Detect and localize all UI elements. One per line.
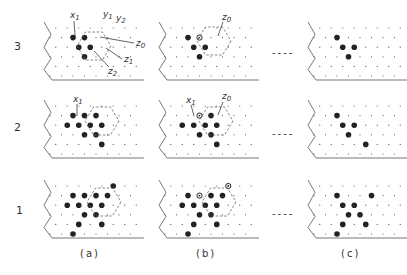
lattice-site	[400, 125, 401, 126]
marked-site-center	[199, 115, 201, 117]
annotation-leader	[94, 51, 109, 67]
lattice-site	[365, 125, 366, 126]
lattice-site	[222, 115, 223, 116]
lattice-site	[49, 153, 50, 154]
lattice-site	[394, 37, 395, 38]
lattice-site	[55, 224, 56, 225]
lattice-site	[245, 134, 246, 135]
lattice-site	[187, 115, 188, 116]
lattice-site	[331, 205, 332, 206]
lattice-site	[61, 115, 62, 116]
occupied-site	[340, 202, 346, 208]
lattice-site	[216, 47, 217, 48]
lattice-site	[319, 125, 320, 126]
lattice-site	[187, 56, 188, 57]
occupied-site	[191, 222, 197, 228]
lattice-site	[371, 233, 372, 234]
lattice-site	[359, 37, 360, 38]
surface-boundary	[308, 180, 407, 238]
lattice-site	[205, 144, 206, 145]
occupied-site	[351, 122, 357, 128]
lattice-site	[313, 115, 314, 116]
hexagon-outline	[202, 188, 236, 216]
lattice-site	[245, 214, 246, 215]
lattice-site	[78, 66, 79, 67]
lattice-site	[130, 37, 131, 38]
lattice-site	[101, 47, 102, 48]
lattice-site	[336, 134, 337, 135]
lattice-site	[348, 233, 349, 234]
lattice-site	[176, 153, 177, 154]
lattice-site	[319, 205, 320, 206]
lattice-site	[72, 214, 73, 215]
lattice-site	[228, 105, 229, 106]
column-labels: (a) (b) (c)	[80, 248, 360, 259]
surface-boundary	[44, 100, 144, 158]
occupied-site	[179, 122, 185, 128]
lattice-site	[371, 75, 372, 76]
lattice-site	[67, 105, 68, 106]
lattice-site	[319, 27, 320, 28]
lattice-site	[193, 27, 194, 28]
lattice-site	[107, 56, 108, 57]
occupied-site	[214, 142, 220, 148]
occupied-site	[214, 202, 220, 208]
lattice-site	[365, 185, 366, 186]
lattice-site	[130, 233, 131, 234]
lattice-site	[193, 66, 194, 67]
ellipsis-row-2: ----	[272, 128, 294, 139]
lattice-site	[251, 66, 252, 67]
annotation-leader	[106, 48, 122, 59]
lattice-site	[164, 115, 165, 116]
lattice-site	[55, 125, 56, 126]
lattice-site	[118, 195, 119, 196]
occupied-site	[64, 122, 70, 128]
lattice-site	[233, 195, 234, 196]
lattice-site	[331, 66, 332, 67]
lattice-site	[118, 153, 119, 154]
lattice-site	[313, 153, 314, 154]
lattice-site	[222, 153, 223, 154]
lattice-site	[331, 224, 332, 225]
annotation-z2: z2	[107, 66, 118, 78]
lattice-site	[348, 195, 349, 196]
lattice-site	[228, 144, 229, 145]
occupied-site	[191, 202, 197, 208]
lattice-site	[359, 153, 360, 154]
lattice-site	[400, 185, 401, 186]
lattice-site	[388, 185, 389, 186]
lattice-site	[382, 37, 383, 38]
lattice-site	[113, 66, 114, 67]
lattice-site	[400, 105, 401, 106]
lattice-site	[170, 185, 171, 186]
surface-boundary	[308, 100, 407, 158]
lattice-site	[233, 214, 234, 215]
lattice-site	[124, 105, 125, 106]
lattice-site	[61, 134, 62, 135]
lattice-site	[84, 153, 85, 154]
lattice-site	[394, 56, 395, 57]
lattice-site	[239, 47, 240, 48]
lattice-site	[118, 233, 119, 234]
lattice-site	[67, 144, 68, 145]
lattice-site	[118, 214, 119, 215]
lattice-site	[325, 233, 326, 234]
lattice-site	[251, 105, 252, 106]
lattice-figure: 3 2 1 (a) (b) (c) ---- ---- ---- x1y1y2z…	[0, 0, 407, 275]
annotation-leader	[100, 37, 134, 43]
row-label-3: 3	[14, 40, 21, 53]
lattice-site	[61, 214, 62, 215]
lattice-site	[319, 47, 320, 48]
lattice-site	[49, 233, 50, 234]
surface-boundary	[308, 22, 407, 80]
lattice-site	[205, 224, 206, 225]
lattice-site	[55, 205, 56, 206]
lattice-site	[107, 214, 108, 215]
lattice-site	[130, 195, 131, 196]
lattice-site	[130, 214, 131, 215]
occupied-site	[99, 222, 105, 228]
lattice-site	[49, 134, 50, 135]
lattice-site	[216, 185, 217, 186]
occupied-site	[191, 44, 197, 50]
lattice-site	[95, 153, 96, 154]
